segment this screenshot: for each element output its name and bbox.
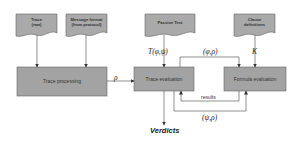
doc-passive-test-label: Passive Test [145,20,195,25]
edge-label-phi-rho: (φ,ρ) [203,47,218,56]
formula-evaluation-label: Formula evaluation [224,76,286,82]
doc-trace-line2: (raw) [16,22,57,27]
doc-passive-test [145,14,195,36]
doc-clause-definitions-label: Clause definitions [234,17,275,27]
doc-trace-label: Trace (raw) [16,17,57,27]
edge-label-rho: ρ [114,73,118,82]
edge-label-T-phi-psi: T(φ,ψ) [148,47,168,56]
trace-evaluation-label: Trace evaluation [134,76,194,82]
verdicts-label: Verdicts [150,126,179,135]
doc-message-format-label: Message format (from protocol) [66,17,107,27]
edge-label-results: results [201,94,216,100]
trace-processing-label: Trace processing [17,78,107,84]
edge-label-psi-rho: (ψ,ρ) [202,113,217,122]
doc-clause-line2: definitions [234,22,275,27]
arrow-phi-rho [180,57,239,67]
doc-passive-test-line1: Passive Test [145,20,195,25]
doc-message-format-line2: (from protocol) [66,22,107,27]
edge-label-K: K [252,47,257,56]
